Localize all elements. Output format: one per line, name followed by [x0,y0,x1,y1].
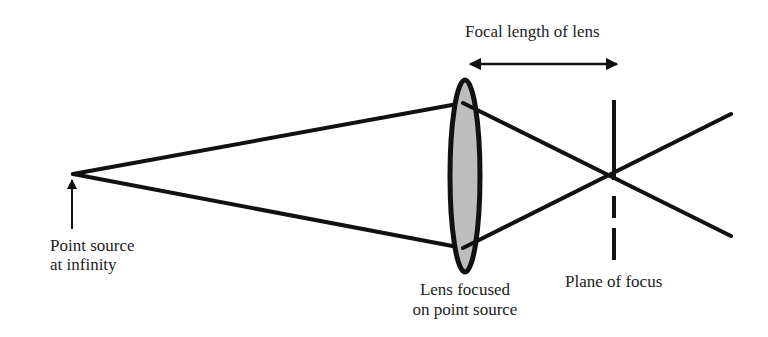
refracted-ray-top [463,103,731,236]
lens-label-line1: Lens focused [395,280,535,300]
point-source-label-line2: at infinity [50,255,117,275]
lens-label-line2: on point source [395,300,535,320]
plane-of-focus-label: Plane of focus [565,272,662,292]
focal-length-label: Focal length of lens [465,22,600,42]
refracted-ray-bottom [463,114,731,248]
incoming-ray-top [73,103,463,174]
point-source-label-line1: Point source [50,236,135,256]
